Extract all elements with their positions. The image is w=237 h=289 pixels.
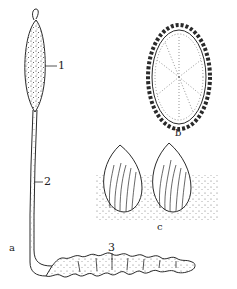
- panel-b-cross-section: [148, 25, 210, 129]
- part-label-2: 2: [44, 176, 51, 187]
- panel-label-c: c: [157, 222, 163, 232]
- stroma-head: [25, 20, 45, 112]
- panel-label-b: b: [175, 128, 181, 138]
- part-label-3: 3: [108, 242, 115, 253]
- part-label-1: 1: [58, 60, 65, 71]
- panel-c-perithecia: [96, 143, 218, 220]
- panel-label-a: a: [9, 243, 15, 253]
- host-larva: [46, 253, 195, 277]
- figure-illustration: [0, 0, 237, 289]
